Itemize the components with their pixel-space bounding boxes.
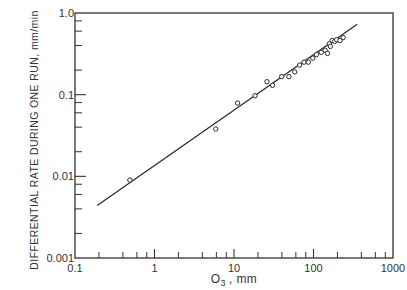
data-point [287,74,291,78]
x-tick-label: 100 [304,262,322,274]
x-tick-label: 1 [151,262,157,274]
y-tick-label: 1.0 [59,7,74,19]
y-axis-label: DIFFERENTIAL RATE DURING ONE RUN, mm/min [28,10,40,269]
fit-line [97,24,357,205]
data-point [235,101,239,105]
plot-frame [75,13,393,258]
data-point [279,74,283,78]
data-point [341,35,345,39]
y-tick-label: 0.001 [46,252,74,264]
y-tick-label: 0.01 [53,170,74,182]
data-point [325,51,329,55]
data-point [328,44,332,48]
data-point [302,60,306,64]
data-point [270,83,274,87]
data-point [265,80,269,84]
x-axis-label-main: O [211,272,221,286]
data-point [214,127,218,131]
y-tick-labels: 0.0010.010.11.0 [46,7,74,264]
data-point [314,52,318,56]
data-point [128,178,132,182]
log-log-chart: 0.11101001000 0.0010.010.11.0 O3, mm DIF… [0,0,407,290]
x-axis-label-unit: , mm [229,272,257,286]
x-tick-label: 1000 [381,262,405,274]
x-axis-label: O3, mm [211,272,257,288]
axis-ticks [75,21,385,258]
y-tick-label: 0.1 [59,89,74,101]
data-point [306,60,310,64]
data-point [297,63,301,67]
data-point [253,94,257,98]
data-point [311,56,315,60]
x-axis-label-subscript: 3 [221,278,226,288]
data-point [292,70,296,74]
